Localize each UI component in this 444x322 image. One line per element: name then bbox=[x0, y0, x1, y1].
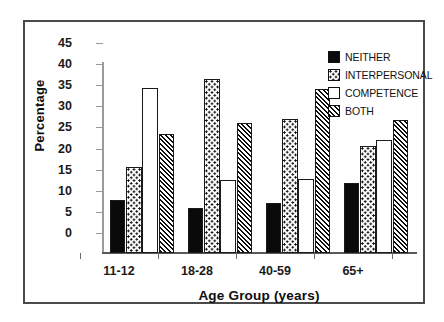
chart-legend: NEITHERINTERPERSONALCOMPETENCEBOTH bbox=[328, 48, 444, 120]
y-tick-label: 40 bbox=[50, 58, 72, 71]
legend-swatch-icon bbox=[328, 105, 340, 117]
y-tick-label: 30 bbox=[50, 100, 72, 113]
bar-interpersonal-18-28 bbox=[204, 79, 220, 253]
y-tick-mark bbox=[96, 64, 103, 65]
y-tick-label: 25 bbox=[50, 121, 72, 134]
bar-neither-11-12 bbox=[110, 200, 126, 253]
legend-label: INTERPERSONAL bbox=[345, 69, 432, 81]
y-tick-label: 15 bbox=[50, 164, 72, 177]
legend-label: BOTH bbox=[345, 105, 374, 117]
y-tick-mark bbox=[96, 170, 103, 171]
legend-label: NEITHER bbox=[345, 51, 390, 63]
y-tick-label: 10 bbox=[50, 185, 72, 198]
bar-neither-40-59 bbox=[266, 203, 282, 253]
x-tick-mark bbox=[392, 253, 393, 259]
x-tick-label: 11-12 bbox=[79, 265, 159, 278]
bar-competence-11-12 bbox=[142, 88, 158, 253]
y-tick-mark bbox=[96, 191, 103, 192]
legend-item-neither: NEITHER bbox=[328, 48, 444, 65]
legend-label: COMPETENCE bbox=[345, 87, 418, 99]
x-tick-mark bbox=[158, 253, 159, 259]
x-axis-title: Age Group (years) bbox=[103, 288, 415, 303]
bar-competence-18-28 bbox=[220, 180, 236, 253]
x-tick-mark bbox=[236, 253, 237, 259]
y-tick-mark bbox=[96, 127, 103, 128]
x-tick-mark bbox=[314, 253, 315, 259]
figure-border: Percentage Age Group (years) 45403530252… bbox=[23, 20, 425, 304]
x-tick-label: 40-59 bbox=[235, 265, 315, 278]
bar-interpersonal-11-12 bbox=[126, 167, 142, 253]
x-tick-label: 65+ bbox=[313, 265, 393, 278]
y-tick-mark bbox=[96, 212, 103, 213]
legend-item-competence: COMPETENCE bbox=[328, 84, 444, 101]
bar-interpersonal-65+ bbox=[360, 146, 376, 253]
bar-interpersonal-40-59 bbox=[282, 119, 298, 253]
x-tick-mark bbox=[80, 253, 81, 259]
y-tick-label: 20 bbox=[50, 143, 72, 156]
legend-swatch-icon bbox=[328, 51, 340, 63]
bar-neither-65+ bbox=[344, 183, 360, 253]
bar-both-18-28 bbox=[237, 123, 253, 253]
legend-item-both: BOTH bbox=[328, 102, 444, 119]
bar-both-65+ bbox=[393, 120, 409, 253]
y-axis-title: Percentage bbox=[32, 56, 47, 176]
y-tick-mark bbox=[96, 106, 103, 107]
y-tick-mark bbox=[96, 85, 103, 86]
y-tick-mark bbox=[96, 149, 103, 150]
legend-swatch-icon bbox=[328, 69, 340, 81]
y-tick-mark bbox=[96, 43, 103, 44]
x-tick-label: 18-28 bbox=[157, 265, 237, 278]
bar-both-11-12 bbox=[159, 134, 175, 253]
bar-competence-40-59 bbox=[298, 179, 314, 253]
bar-neither-18-28 bbox=[188, 208, 204, 253]
y-tick-label: 0 bbox=[50, 227, 72, 240]
y-tick-label: 5 bbox=[50, 206, 72, 219]
chart-figure: Percentage Age Group (years) 45403530252… bbox=[0, 0, 444, 322]
y-tick-label: 35 bbox=[50, 79, 72, 92]
legend-item-interpersonal: INTERPERSONAL bbox=[328, 66, 444, 83]
y-tick-label: 45 bbox=[50, 37, 72, 50]
legend-swatch-icon bbox=[328, 87, 340, 99]
bar-competence-65+ bbox=[376, 140, 392, 253]
y-tick-mark bbox=[96, 233, 103, 234]
